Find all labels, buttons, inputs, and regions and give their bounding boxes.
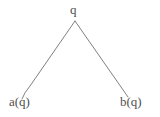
edge-root-to-a-icon <box>22 21 75 99</box>
tree-diagram: q a(q) b(q) <box>0 0 160 117</box>
node-label-left-child: a(q) <box>9 95 30 108</box>
node-label-right-child: b(q) <box>120 95 142 108</box>
edge-root-to-b-icon <box>75 21 128 97</box>
node-label-root: q <box>70 3 77 16</box>
